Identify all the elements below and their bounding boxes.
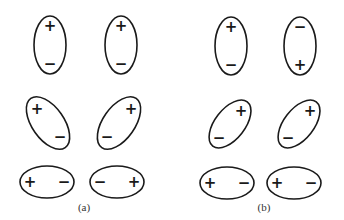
ellipse-outline: [201, 93, 259, 156]
plus-sign: +: [24, 173, 37, 191]
dipole-diagram: +−+−+−+−+−−+(a) +−−++−+−+−+−(b): [0, 0, 344, 220]
dipole-ellipse: +−: [20, 166, 74, 198]
minus-sign: −: [58, 173, 71, 191]
plus-sign: +: [204, 174, 217, 192]
minus-sign: −: [54, 128, 67, 146]
minus-sign: −: [213, 129, 226, 147]
minus-sign: −: [44, 55, 57, 73]
dipole-ellipse: +−: [201, 93, 259, 156]
plus-sign: +: [271, 174, 284, 192]
panel-a: +−+−+−+−+−−+(a): [18, 16, 150, 214]
plus-sign: +: [125, 100, 138, 118]
dipole-ellipse: +−: [18, 89, 79, 157]
plus-sign: +: [235, 102, 248, 120]
dipole-ellipse: −+: [90, 166, 144, 198]
dipole-ellipse: +−: [267, 167, 321, 199]
ellipse-outline: [89, 89, 150, 157]
plus-sign: +: [128, 173, 141, 191]
dipole-ellipse: +−: [105, 16, 137, 74]
minus-sign: −: [94, 173, 107, 191]
ellipse-outline: [18, 89, 79, 157]
panel-label: (b): [258, 201, 271, 214]
minus-sign: −: [294, 18, 307, 36]
minus-sign: −: [282, 129, 295, 147]
plus-sign: +: [31, 100, 44, 118]
plus-sign: +: [294, 56, 307, 74]
minus-sign: −: [305, 174, 318, 192]
panel-label: (a): [78, 201, 91, 214]
minus-sign: −: [101, 128, 114, 146]
dipole-ellipse: −+: [284, 17, 316, 75]
dipole-ellipse: +−: [215, 17, 247, 75]
dipole-ellipse: +−: [89, 89, 150, 157]
plus-sign: +: [44, 17, 57, 35]
minus-sign: −: [115, 55, 128, 73]
minus-sign: −: [225, 56, 238, 74]
minus-sign: −: [238, 174, 251, 192]
dipole-ellipse: +−: [34, 16, 66, 74]
dipole-ellipse: +−: [270, 93, 328, 156]
panel-b: +−−++−+−+−+−(b): [200, 17, 328, 214]
plus-sign: +: [115, 17, 128, 35]
ellipse-outline: [270, 93, 328, 156]
plus-sign: +: [304, 102, 317, 120]
dipole-ellipse: +−: [200, 167, 254, 199]
plus-sign: +: [225, 18, 238, 36]
